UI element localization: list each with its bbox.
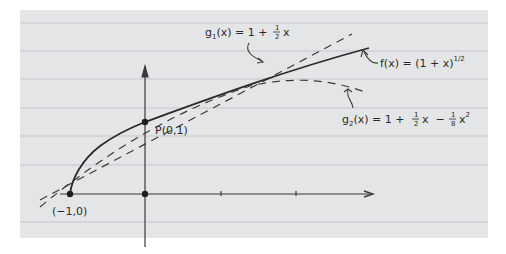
- label-g2-frac1-num: 1: [414, 111, 418, 119]
- label-g2-frac2-den: 8: [451, 120, 455, 128]
- label-g1-frac-den: 2: [275, 33, 279, 41]
- label-f: f(x) = (1 + x)1/2: [380, 55, 465, 70]
- label-g2-frac1-den: 2: [414, 120, 418, 128]
- label-g2-var1: x −: [422, 113, 445, 126]
- point-neg1-0: [67, 191, 73, 197]
- label-g1-frac-num: 1: [275, 24, 279, 32]
- label-point-neg1: (−1,0): [52, 205, 87, 218]
- label-point-p: P(0,1): [155, 124, 188, 137]
- point-origin: [142, 191, 148, 197]
- notebook-figure: g1(x) = 1 + 1 2 x f(x) = (1 + x)1/2 g2(x…: [0, 0, 506, 254]
- point-p: [142, 119, 148, 125]
- label-g1-var: x: [283, 26, 290, 39]
- label-g2-frac2-num: 1: [451, 111, 455, 119]
